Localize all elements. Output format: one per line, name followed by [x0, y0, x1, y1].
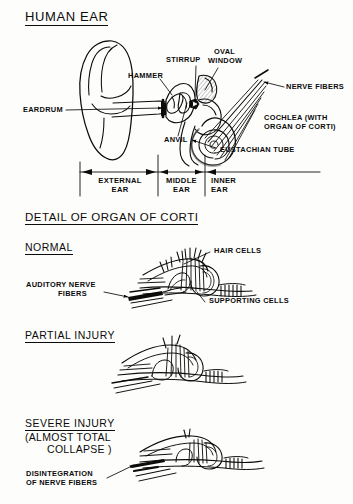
- label-nerve-fibers: NERVE FIBERS: [286, 83, 344, 91]
- zone-external-ear-line1: EXTERNAL: [92, 177, 148, 185]
- label-oval-window-line1: OVAL: [214, 48, 235, 56]
- label-eardrum: EARDRUM: [23, 106, 63, 114]
- zone-inner-ear-line2: EAR: [211, 186, 228, 194]
- zone-inner-ear-line1: INNER: [211, 177, 236, 185]
- panel-title-partial-injury: PARTIAL INJURY: [25, 330, 115, 343]
- corti-partial-artwork: [112, 335, 246, 393]
- section-title-detail-of-organ-of-corti: DETAIL OF ORGAN OF CORTI: [25, 211, 198, 225]
- zone-middle-ear-line1: MIDDLE: [159, 177, 204, 185]
- label-cochlea-line2: ORGAN OF CORTI): [264, 123, 336, 131]
- zone-external-ear-line2: EAR: [92, 186, 148, 194]
- panel-title-normal: NORMAL: [25, 242, 73, 255]
- eardrum-membrane: [161, 100, 166, 117]
- label-hammer: HAMMER: [128, 72, 163, 80]
- diagram-page: HUMAN EAR STIRRUP OVAL WINDOW HAMMER NER…: [0, 0, 353, 504]
- panel-subtitle-severe-injury-line2: COLLAPSE ): [47, 444, 112, 455]
- panel-subtitle-severe-injury-line1: (ALMOST TOTAL: [25, 432, 111, 443]
- label-cochlea-line1: COCHLEA (WITH: [264, 114, 328, 122]
- label-disintegration-line1: DISINTEGRATION: [26, 470, 93, 478]
- zone-middle-ear-line2: EAR: [159, 186, 204, 194]
- corti-severe-leaders: [107, 465, 134, 478]
- label-auditory-nerve-fibers-line2: FIBERS: [58, 290, 87, 298]
- label-auditory-nerve-fibers-line1: AUDITORY NERVE: [26, 281, 96, 289]
- label-stirrup: STIRRUP: [166, 56, 201, 64]
- page-title-human-ear: HUMAN EAR: [25, 10, 108, 26]
- panel-title-severe-injury: SEVERE INJURY: [25, 418, 115, 431]
- label-disintegration-line2: OF NERVE FIBERS: [26, 479, 97, 487]
- pinna-outline: [80, 41, 133, 160]
- label-supporting-cells: SUPPORTING CELLS: [209, 297, 289, 305]
- middle-ear-cavity: [166, 83, 199, 122]
- label-oval-window-line2: WINDOW: [208, 57, 242, 65]
- label-eustachian-tube: EUSTACHIAN TUBE: [220, 146, 295, 154]
- label-hair-cells: HAIR CELLS: [214, 247, 261, 255]
- corti-severe-artwork: [131, 429, 264, 481]
- label-anvil: ANVIL: [164, 136, 188, 144]
